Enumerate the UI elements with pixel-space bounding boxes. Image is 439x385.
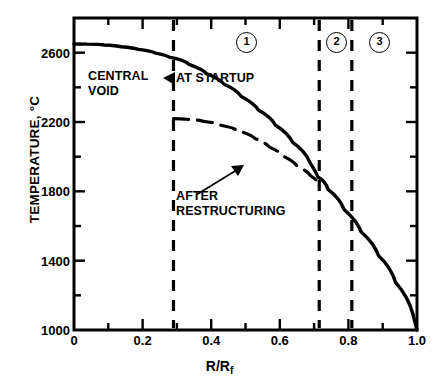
plot-frame	[74, 18, 417, 330]
chart-figure: TEMPERATURE, °C R/Rf 1000 1400 1800 2200…	[0, 0, 439, 385]
central-void-line-1: CENTRAL	[88, 69, 148, 83]
region-label-3: 3	[369, 32, 390, 53]
central-void-line-2: VOID	[88, 84, 119, 98]
x-axis-title-main: R/R	[206, 358, 230, 374]
y-tick-1000: 1000	[41, 323, 70, 338]
annotation-after-restructuring: AFTERRESTRUCTURING	[176, 189, 286, 219]
x-tick-0: 0	[70, 333, 77, 348]
y-tick-2600: 2600	[41, 45, 70, 60]
x-tick-08: 0.8	[339, 333, 357, 348]
y-tick-2200: 2200	[41, 115, 70, 130]
after-restructuring-line-2: RESTRUCTURING	[176, 204, 286, 218]
after-restructuring-line-1: AFTER	[176, 189, 218, 203]
x-tick-02: 0.2	[134, 333, 152, 348]
y-tick-label-group: 1000 1400 1800 2200 2600	[0, 0, 70, 385]
annotation-central-void: CENTRALVOID	[88, 69, 148, 99]
annotation-at-startup: AT STARTUP	[176, 71, 254, 86]
region-label-2: 2	[326, 32, 347, 53]
x-tick-06: 0.6	[271, 333, 289, 348]
x-tick-10: 1.0	[408, 333, 426, 348]
x-axis-title-sub: f	[230, 365, 233, 376]
x-tick-04: 0.4	[202, 333, 220, 348]
y-tick-1800: 1800	[41, 184, 70, 199]
region-label-1: 1	[236, 32, 257, 53]
y-tick-1400: 1400	[41, 253, 70, 268]
